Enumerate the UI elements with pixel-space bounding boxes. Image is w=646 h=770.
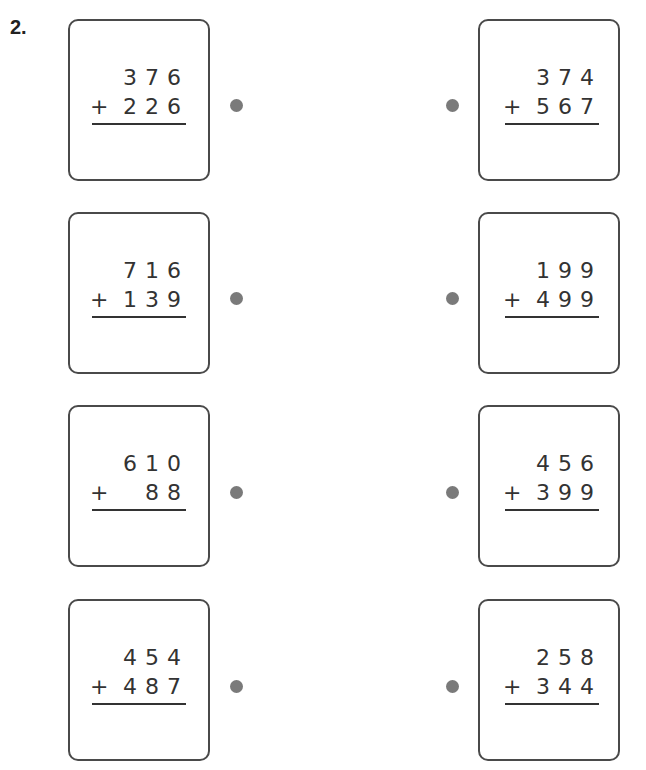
plus-sign: + xyxy=(503,287,521,312)
right-problem-card-2: 1 9 9 + 4 9 9 xyxy=(478,212,620,374)
digit: 8 xyxy=(142,480,162,505)
digit: 7 xyxy=(164,674,184,699)
top-number: 6 1 0 xyxy=(90,451,190,480)
digit: 6 xyxy=(577,451,597,476)
digit: 5 xyxy=(142,645,162,670)
sum-line xyxy=(92,703,186,705)
match-dot-left-3[interactable] xyxy=(230,486,243,499)
digit: 7 xyxy=(142,65,162,90)
top-number: 3 7 4 xyxy=(503,65,603,94)
sum-line xyxy=(505,703,599,705)
digit: 8 xyxy=(577,645,597,670)
bottom-number: + 3 4 4 xyxy=(503,674,603,703)
digit: 7 xyxy=(120,258,140,283)
plus-sign: + xyxy=(503,94,521,119)
plus-sign: + xyxy=(90,674,108,699)
bottom-number: + 2 2 6 xyxy=(90,94,190,123)
digit: 3 xyxy=(120,65,140,90)
digit: 5 xyxy=(555,645,575,670)
bottom-number: + 8 8 xyxy=(90,480,190,509)
plus-sign: + xyxy=(503,480,521,505)
left-problem-card-3: 6 1 0 + 8 8 xyxy=(68,405,210,567)
match-dot-right-4[interactable] xyxy=(446,680,459,693)
right-problem-card-4: 2 5 8 + 3 4 4 xyxy=(478,599,620,761)
digit: 4 xyxy=(555,674,575,699)
digit: 7 xyxy=(577,94,597,119)
match-dot-left-2[interactable] xyxy=(230,292,243,305)
match-dot-left-1[interactable] xyxy=(230,99,243,112)
digit: 9 xyxy=(555,287,575,312)
addition-problem: 4 5 4 + 4 8 7 xyxy=(90,645,190,703)
bottom-number: + 4 9 9 xyxy=(503,287,603,316)
digit: 2 xyxy=(142,94,162,119)
digit: 6 xyxy=(555,94,575,119)
digit: 4 xyxy=(120,674,140,699)
digit: 8 xyxy=(142,674,162,699)
digit: 7 xyxy=(555,65,575,90)
match-dot-left-4[interactable] xyxy=(230,680,243,693)
match-dot-right-3[interactable] xyxy=(446,486,459,499)
top-number: 4 5 4 xyxy=(90,645,190,674)
digit: 3 xyxy=(533,65,553,90)
digit: 9 xyxy=(577,480,597,505)
sum-line xyxy=(505,316,599,318)
digit: 6 xyxy=(164,258,184,283)
bottom-number: + 3 9 9 xyxy=(503,480,603,509)
addition-problem: 3 7 4 + 5 6 7 xyxy=(503,65,603,123)
digit: 4 xyxy=(577,674,597,699)
digit: 5 xyxy=(555,451,575,476)
plus-sign: + xyxy=(90,480,108,505)
left-problem-card-4: 4 5 4 + 4 8 7 xyxy=(68,599,210,761)
top-number: 4 5 6 xyxy=(503,451,603,480)
bottom-number: + 5 6 7 xyxy=(503,94,603,123)
digit: 5 xyxy=(533,94,553,119)
sum-line xyxy=(92,316,186,318)
digit: 3 xyxy=(533,480,553,505)
addition-problem: 4 5 6 + 3 9 9 xyxy=(503,451,603,509)
match-dot-right-1[interactable] xyxy=(446,99,459,112)
digit: 4 xyxy=(164,645,184,670)
digit: 3 xyxy=(142,287,162,312)
top-number: 2 5 8 xyxy=(503,645,603,674)
digit: 2 xyxy=(120,94,140,119)
sum-line xyxy=(505,123,599,125)
digit: 6 xyxy=(164,65,184,90)
digit: 9 xyxy=(164,287,184,312)
left-problem-card-1: 3 7 6 + 2 2 6 xyxy=(68,19,210,181)
top-number: 1 9 9 xyxy=(503,258,603,287)
digit: 8 xyxy=(164,480,184,505)
digit: 6 xyxy=(120,451,140,476)
digit: 3 xyxy=(533,674,553,699)
addition-problem: 6 1 0 + 8 8 xyxy=(90,451,190,509)
digit: 1 xyxy=(533,258,553,283)
addition-problem: 7 1 6 + 1 3 9 xyxy=(90,258,190,316)
digit: 0 xyxy=(164,451,184,476)
digit: 4 xyxy=(533,287,553,312)
plus-sign: + xyxy=(90,287,108,312)
addition-problem: 3 7 6 + 2 2 6 xyxy=(90,65,190,123)
digit: 9 xyxy=(555,480,575,505)
sum-line xyxy=(92,123,186,125)
question-number: 2. xyxy=(10,16,27,39)
left-problem-card-2: 7 1 6 + 1 3 9 xyxy=(68,212,210,374)
digit: 2 xyxy=(533,645,553,670)
bottom-number: + 1 3 9 xyxy=(90,287,190,316)
right-problem-card-3: 4 5 6 + 3 9 9 xyxy=(478,405,620,567)
digit: 9 xyxy=(555,258,575,283)
digit: 9 xyxy=(577,287,597,312)
sum-line xyxy=(505,509,599,511)
match-dot-right-2[interactable] xyxy=(446,292,459,305)
top-number: 3 7 6 xyxy=(90,65,190,94)
bottom-number: + 4 8 7 xyxy=(90,674,190,703)
digit: 9 xyxy=(577,258,597,283)
digit: 1 xyxy=(142,258,162,283)
digit: 1 xyxy=(142,451,162,476)
digit: 1 xyxy=(120,287,140,312)
digit: 6 xyxy=(164,94,184,119)
digit: 4 xyxy=(533,451,553,476)
addition-problem: 1 9 9 + 4 9 9 xyxy=(503,258,603,316)
plus-sign: + xyxy=(503,674,521,699)
addition-problem: 2 5 8 + 3 4 4 xyxy=(503,645,603,703)
plus-sign: + xyxy=(90,94,108,119)
sum-line xyxy=(92,509,186,511)
